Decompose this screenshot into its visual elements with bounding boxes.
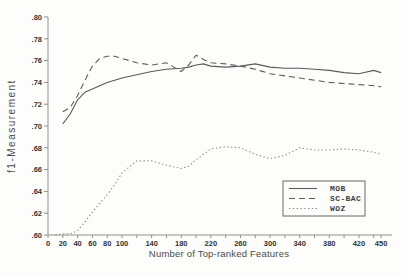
y-tick-label: .64 xyxy=(32,187,43,196)
figure: .60.62.64.66.68.70.72.74.76.78.800204060… xyxy=(0,0,406,277)
x-tick-label: 20 xyxy=(59,239,67,248)
f1-measurement-line-chart: .60.62.64.66.68.70.72.74.76.78.800204060… xyxy=(0,0,406,277)
x-tick-label: 60 xyxy=(88,239,96,248)
x-tick-label: 0 xyxy=(46,239,50,248)
x-tick-label: 40 xyxy=(73,239,81,248)
x-tick-label: 300 xyxy=(264,239,277,248)
y-tick-label: .78 xyxy=(32,35,42,44)
y-axis-title: f1-Measurement xyxy=(6,71,20,181)
x-tick-label: 140 xyxy=(145,239,158,248)
x-tick-label: 260 xyxy=(234,239,247,248)
y-tick-label: .72 xyxy=(32,100,42,109)
x-tick-label: 420 xyxy=(353,239,366,248)
y-tick-label: .60 xyxy=(32,231,42,240)
series-mob-line xyxy=(63,64,381,124)
y-tick-label: .76 xyxy=(32,56,42,65)
legend: MOBSC-BACWOZ xyxy=(283,181,365,216)
y-tick-label: .74 xyxy=(32,78,43,87)
x-tick-label: 380 xyxy=(323,239,336,248)
legend-label: WOZ xyxy=(330,204,346,213)
x-tick-label: 450 xyxy=(375,239,388,248)
x-tick-label: 80 xyxy=(103,239,111,248)
series-sc-bac-line xyxy=(63,55,381,112)
y-tick-label: .70 xyxy=(32,122,42,131)
legend-label: MOB xyxy=(330,184,346,193)
y-tick-label: .66 xyxy=(32,165,42,174)
x-axis-title: Number of Top-ranked Features xyxy=(48,248,390,259)
y-tick-label: .80 xyxy=(32,13,42,22)
y-tick-label: .62 xyxy=(32,209,42,218)
x-tick-label: 100 xyxy=(116,239,129,248)
y-tick-label: .68 xyxy=(32,144,42,153)
legend-label: SC-BAC xyxy=(330,194,361,203)
x-tick-label: 180 xyxy=(175,239,188,248)
x-tick-label: 340 xyxy=(293,239,306,248)
x-tick-label: 220 xyxy=(205,239,218,248)
